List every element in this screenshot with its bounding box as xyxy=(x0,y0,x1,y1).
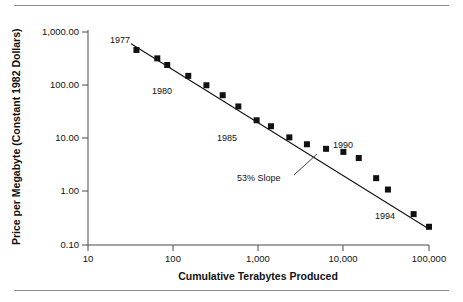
x-axis-ticks xyxy=(88,245,429,251)
y-axis-ticks xyxy=(82,32,88,245)
price-per-megabyte-scatter-plot: Price per Megabyte (Constant 1982 Dollar… xyxy=(0,0,463,302)
slope-label-leader-line xyxy=(294,154,317,175)
annotation-1977: 1977 xyxy=(110,35,130,45)
data-point xyxy=(304,141,310,147)
x-tick-label-10: 10 xyxy=(83,253,94,264)
y-tick-label-1000: 1,000.00 xyxy=(42,26,79,37)
x-axis-tick-labels: 10 100 1,000 10,000 100,000 xyxy=(83,253,446,264)
y-tick-label-1: 1.00 xyxy=(61,185,80,196)
data-point xyxy=(268,123,274,129)
data-point xyxy=(373,175,379,181)
annotation-1994: 1994 xyxy=(375,211,395,221)
data-point xyxy=(154,55,160,61)
y-tick-label-0.1: 0.10 xyxy=(61,239,80,250)
x-tick-label-1000: 1,000 xyxy=(246,253,270,264)
data-point xyxy=(235,103,241,109)
data-point xyxy=(133,47,139,53)
y-tick-label-100: 100.00 xyxy=(50,79,79,90)
data-point xyxy=(220,92,226,98)
data-point xyxy=(411,211,417,217)
annotation-1980: 1980 xyxy=(152,86,172,96)
data-point xyxy=(286,134,292,140)
data-point xyxy=(164,62,170,68)
annotation-53-percent-slope: 53% Slope xyxy=(237,173,281,183)
data-point xyxy=(356,155,362,161)
y-tick-label-10: 10.00 xyxy=(55,132,79,143)
y-axis-title: Price per Megabyte (Constant 1982 Dollar… xyxy=(10,29,22,246)
x-tick-label-100: 100 xyxy=(165,253,181,264)
annotation-1990: 1990 xyxy=(333,140,353,150)
x-axis-title: Cumulative Terabytes Produced xyxy=(178,270,338,282)
chart-figure: Price per Megabyte (Constant 1982 Dollar… xyxy=(0,0,463,302)
data-point xyxy=(323,146,329,152)
x-tick-label-100000: 100,000 xyxy=(412,253,446,264)
data-point xyxy=(254,117,260,123)
annotation-1985: 1985 xyxy=(217,133,237,143)
x-tick-label-10000: 10,000 xyxy=(328,253,357,264)
trend-line-53-percent-slope xyxy=(131,44,429,229)
data-point xyxy=(185,73,191,79)
data-point xyxy=(385,187,391,193)
y-axis-tick-labels: 1,000.00 100.00 10.00 1.00 0.10 xyxy=(42,26,79,250)
data-point xyxy=(203,82,209,88)
data-point xyxy=(426,224,432,230)
